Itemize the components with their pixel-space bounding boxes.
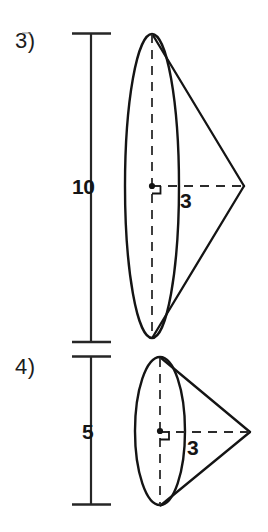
scan-artifact-speck: [22, 32, 31, 34]
cone-axis-guides: [152, 34, 243, 338]
problem-3-figure: 3): [0, 0, 268, 348]
base-center-point: [157, 428, 163, 434]
problem-3-height-label: 10: [72, 175, 94, 199]
cone-axis-guides: [160, 358, 249, 505]
problem-4-height-label: 5: [82, 420, 94, 444]
center-and-right-angle: [157, 428, 169, 440]
problem-4-drawing: [0, 348, 268, 532]
problem-3-drawing: [0, 0, 268, 348]
problem-3-radius-label: 3: [180, 189, 192, 213]
problem-4-radius-label: 3: [187, 436, 199, 460]
center-and-right-angle: [149, 183, 161, 194]
base-center-point: [149, 183, 155, 189]
worksheet-page: 3): [0, 0, 268, 532]
problem-4-figure: 4) 5: [0, 348, 268, 532]
